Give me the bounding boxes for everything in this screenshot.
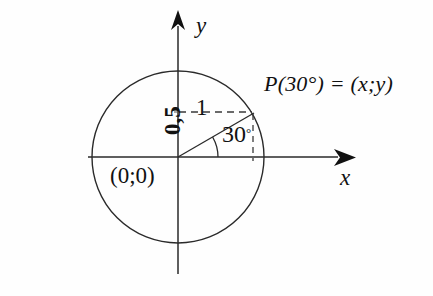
diagram-canvas [0, 0, 433, 296]
half-value-label: 0,5 [160, 106, 186, 135]
unit-circle-figure: y x P(30°) = (x;y) 0,5 1 30° (0;0) [0, 0, 433, 296]
angle-arc [213, 137, 218, 157]
angle-value: 30 [222, 121, 246, 147]
point-p-label: P(30°) = (x;y) [264, 73, 393, 95]
angle-label: 30° [222, 122, 251, 146]
y-axis-label: y [196, 14, 206, 37]
radius-length-label: 1 [196, 96, 208, 119]
x-axis-label: x [340, 166, 350, 189]
origin-label: (0;0) [110, 164, 155, 187]
degree-symbol-icon: ° [246, 125, 251, 140]
